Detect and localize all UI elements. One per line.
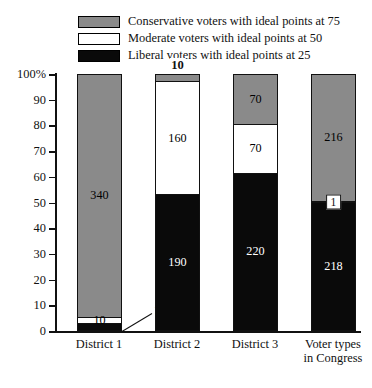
segment-conservative[interactable]: 340 [77, 74, 122, 317]
segment-moderate[interactable]: 160 [155, 81, 200, 195]
segment-conservative[interactable]: 70 [233, 74, 278, 124]
legend-label-conservative: Conservative voters with ideal points at… [128, 15, 340, 28]
y-tick-mark [49, 305, 56, 307]
legend-item-liberal: Liberal voters with ideal points at 25 [78, 48, 340, 63]
bar-voter-types-in-congress[interactable]: 21612181 [311, 74, 356, 331]
boxed-annotation: 1 [326, 195, 342, 210]
segment-value: 340 [90, 188, 108, 203]
segment-liberal[interactable]: 218 [311, 203, 356, 331]
y-tick-label: 30 [34, 248, 46, 260]
segment-value: 216 [324, 130, 342, 145]
y-tick-label: 50 [34, 196, 46, 208]
stacked-bar-chart: Conservative voters with ideal points at… [0, 0, 372, 388]
y-tick-mark [49, 74, 56, 76]
plot-area: 100%9080706050403020100 3401010101016019… [55, 74, 361, 331]
segment-conservative[interactable]: 216 [311, 74, 356, 201]
above-bar-annotation: 10 [169, 58, 186, 73]
y-tick-label: 80 [34, 119, 46, 131]
liberal-swatch-icon [78, 50, 120, 62]
segment-value: 160 [168, 131, 186, 146]
segment-moderate[interactable]: 10 [77, 317, 122, 324]
moderate-swatch-icon [78, 33, 120, 45]
bar-district-1[interactable]: 3401010 [77, 74, 122, 331]
segment-liberal[interactable]: 220 [233, 174, 278, 331]
y-tick-mark [49, 203, 56, 205]
y-tick-mark [49, 254, 56, 256]
x-label-district-2: District 2 [134, 337, 220, 351]
segment-value: 70 [249, 92, 261, 107]
x-label-line: District 2 [134, 337, 220, 351]
leader-line [122, 313, 153, 332]
y-tick-label: 90 [34, 93, 46, 105]
x-label-district-3: District 3 [212, 337, 298, 351]
bar-district-3[interactable]: 7070220 [233, 74, 278, 331]
x-label-district-1: District 1 [56, 337, 142, 351]
y-tick-label: 100% [17, 68, 46, 80]
x-label-line: District 3 [212, 337, 298, 351]
legend-label-moderate: Moderate voters with ideal points at 50 [128, 32, 322, 45]
y-tick-label: 20 [34, 273, 46, 285]
x-axis-line [55, 331, 361, 333]
y-tick-label: 0 [40, 325, 46, 337]
segment-conservative[interactable]: 10 [155, 74, 200, 81]
legend-item-conservative: Conservative voters with ideal points at… [78, 14, 340, 29]
y-tick-label: 60 [34, 171, 46, 183]
y-tick-mark [49, 177, 56, 179]
x-label-line: in Congress [290, 351, 372, 365]
y-tick-mark [49, 125, 56, 127]
y-tick-mark [49, 100, 56, 102]
chart-legend: Conservative voters with ideal points at… [78, 14, 340, 63]
y-tick-mark [49, 151, 56, 153]
y-tick-mark [49, 280, 56, 282]
y-tick-label: 40 [34, 222, 46, 234]
segment-moderate[interactable]: 70 [233, 124, 278, 174]
y-tick-mark [49, 228, 56, 230]
y-tick-mark [49, 331, 56, 333]
y-tick-label: 70 [34, 145, 46, 157]
bar-district-2[interactable]: 1016019010 [155, 74, 200, 331]
segment-value: 70 [249, 141, 261, 156]
legend-item-moderate: Moderate voters with ideal points at 50 [78, 31, 340, 46]
conservative-swatch-icon [78, 16, 120, 28]
segment-value: 218 [324, 259, 342, 274]
x-label-voter-types-in-congress: Voter typesin Congress [290, 337, 372, 365]
segment-value: 190 [168, 255, 186, 270]
segment-liberal[interactable]: 10 [77, 324, 122, 331]
segment-liberal[interactable]: 190 [155, 195, 200, 331]
segment-value: 220 [246, 244, 264, 259]
legend-label-liberal: Liberal voters with ideal points at 25 [128, 49, 310, 62]
y-tick-label: 10 [34, 299, 46, 311]
x-label-line: Voter types [290, 337, 372, 351]
x-label-line: District 1 [56, 337, 142, 351]
